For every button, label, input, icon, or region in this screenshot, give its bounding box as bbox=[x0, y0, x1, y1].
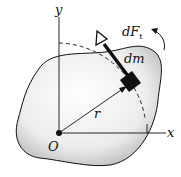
rotation-arrow bbox=[155, 31, 165, 50]
force-label-subscript: t bbox=[139, 32, 142, 41]
diagram-canvas bbox=[0, 0, 181, 177]
radius-label: r bbox=[94, 107, 100, 120]
x-axis-label: x bbox=[167, 126, 174, 139]
mass-element-label: dm bbox=[124, 52, 145, 65]
rotation-arrowhead bbox=[151, 28, 158, 34]
origin-label: O bbox=[48, 140, 59, 153]
force-label: dFt bbox=[122, 25, 143, 41]
origin-point bbox=[56, 130, 62, 136]
y-axis-label: y bbox=[55, 3, 62, 16]
force-arrowhead bbox=[96, 31, 107, 45]
force-label-main: dF bbox=[122, 24, 139, 39]
